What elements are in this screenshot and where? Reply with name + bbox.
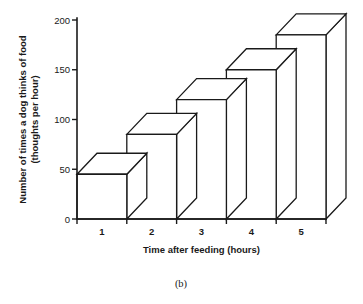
bar-side-face (326, 14, 346, 219)
y-tick-label: 200 (54, 15, 70, 26)
x-tick-label: 3 (199, 226, 204, 237)
x-tick-label: 4 (249, 226, 255, 237)
y-tick-label: 50 (59, 164, 70, 175)
y-axis-title-line1: Number of times a dog thinks of food (17, 35, 28, 204)
y-tick-label: 100 (54, 114, 70, 125)
figure-caption: (b) (175, 278, 188, 290)
y-axis-title-line2: (thoughts per hour) (29, 75, 40, 163)
bar-group (77, 153, 147, 219)
bar-side-face (226, 79, 246, 219)
bar-chart: 05010015020012345Time after feeding (hou… (0, 0, 363, 304)
y-tick-label: 150 (54, 64, 70, 75)
x-tick-label: 5 (298, 226, 304, 237)
bar-side-face (276, 49, 296, 219)
figure-container: 05010015020012345Time after feeding (hou… (0, 0, 363, 304)
x-axis-title: Time after feeding (hours) (143, 244, 260, 255)
x-tick-label: 1 (99, 226, 105, 237)
x-tick-label: 2 (149, 226, 154, 237)
y-tick-label: 0 (65, 214, 70, 225)
bar-front-face (77, 174, 127, 219)
